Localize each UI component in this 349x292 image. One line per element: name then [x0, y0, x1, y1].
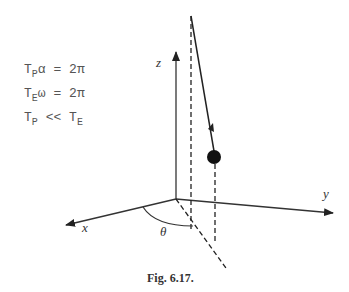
theta-arc	[143, 207, 193, 226]
y-axis	[176, 199, 333, 213]
pendulum-string	[191, 16, 215, 157]
figure: TPα = 2π TEω = 2π TP << TE z y x θ	[0, 0, 349, 292]
figure-caption: Fig. 6.17.	[147, 271, 194, 286]
x-label: x	[81, 220, 88, 235]
theta-label: θ	[160, 224, 167, 239]
swing-plane-dashed	[176, 199, 226, 268]
y-label: y	[321, 186, 329, 201]
z-label: z	[155, 55, 161, 70]
diagram: z y x θ	[0, 0, 349, 292]
pendulum-bob	[207, 150, 221, 164]
